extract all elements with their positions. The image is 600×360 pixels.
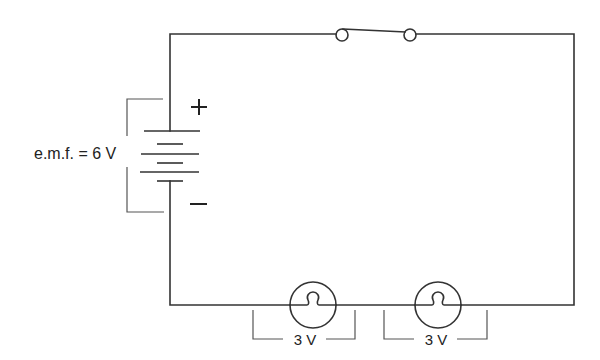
- emf-label: e.m.f. = 6 V: [34, 145, 117, 162]
- circuit-diagram: e.m.f. = 6 V 3 V 3 V: [0, 0, 600, 360]
- bulb-filament: [290, 292, 336, 305]
- bulb-filament: [415, 292, 461, 305]
- bulb-2: [415, 282, 461, 328]
- battery-symbol: [140, 131, 200, 181]
- plus-sign-icon: [191, 99, 207, 115]
- switch-terminal-left: [336, 29, 348, 41]
- circuit-wires: [170, 34, 574, 305]
- wire-top-right: [416, 34, 574, 305]
- bulb-1-voltage-label: 3 V: [294, 331, 317, 348]
- wire-left-bottom: [170, 181, 290, 305]
- switch-terminal-right: [404, 29, 416, 41]
- switch-symbol: [336, 29, 416, 41]
- wire-left-top: [170, 34, 336, 131]
- switch-lever: [343, 29, 405, 32]
- bulb-2-voltage-label: 3 V: [425, 331, 448, 348]
- emf-bracket: [127, 99, 164, 212]
- bulb-1: [290, 282, 336, 328]
